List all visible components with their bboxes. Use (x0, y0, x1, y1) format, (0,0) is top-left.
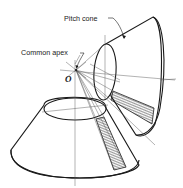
bevel-gear-pitch-cones-diagram: Pitch cone Common apex O (0, 0, 183, 188)
apex-o-label: O (65, 74, 72, 84)
apex-point (75, 69, 77, 71)
pitch-cone-label: Pitch cone (64, 14, 98, 23)
common-apex-label: Common apex (21, 48, 68, 57)
common-apex-leader (77, 53, 84, 67)
